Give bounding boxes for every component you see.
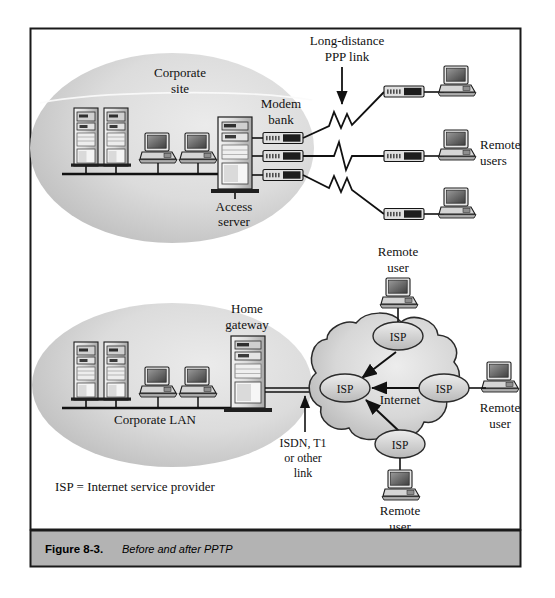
corporate-server-2 [101, 108, 131, 174]
isp-node-right-label: ISP [436, 383, 453, 395]
legend-text: ISP = Internet service provider [55, 479, 216, 494]
remote-modem-2 [384, 151, 424, 162]
internet-label: Internet [380, 392, 421, 407]
remote-modem-3 [384, 209, 424, 220]
isp-node-bottom-label: ISP [392, 439, 409, 451]
home-gateway-label: Home [231, 301, 263, 316]
remote-user-bottom-label: Remote [380, 503, 421, 518]
remote-users-label-2: users [480, 153, 507, 168]
remote-users-label: Remote [480, 137, 521, 152]
modem-bank-label-2: bank [268, 112, 294, 127]
modem-1 [263, 133, 303, 144]
isp-node-left-label: ISP [337, 383, 354, 395]
remote-user-top-label-2: user [387, 260, 409, 275]
caption-title: Before and after PPTP [122, 543, 233, 555]
wan-link-label-3: link [294, 466, 313, 480]
isp-node-left: ISP [320, 374, 370, 402]
remote-user-top-label: Remote [378, 244, 419, 259]
corporate-site-label-2: site [171, 81, 189, 96]
isp-node-right: ISP [419, 374, 469, 402]
corporate-lan-label: Corporate LAN [114, 412, 197, 427]
modem-2 [263, 151, 303, 162]
home-gateway-label-2: gateway [225, 317, 269, 332]
isp-node-top: ISP [373, 322, 423, 350]
ppp-link-label: Long-distance [310, 33, 385, 48]
network-diagram: Corporate site [0, 0, 555, 598]
modem-3 [263, 170, 303, 181]
caption-number: Figure 8-3. [45, 543, 103, 555]
remote-user-right-label: Remote [480, 400, 521, 415]
home-server-2 [101, 342, 131, 408]
wan-link-label: ISDN, T1 [279, 436, 326, 450]
ppp-link-label-2: PPP link [325, 49, 370, 64]
wan-link-label-2: or other [284, 451, 322, 465]
access-server [211, 117, 259, 199]
corporate-site-label: Corporate [154, 65, 206, 80]
corporate-server-1 [71, 108, 101, 174]
caption-bar [31, 531, 521, 567]
remote-user-right-label-2: user [489, 416, 511, 431]
access-server-label-2: server [218, 214, 250, 229]
isp-node-bottom: ISP [375, 430, 425, 458]
access-server-label: Access [216, 199, 253, 214]
modem-bank-label: Modem [261, 96, 301, 111]
figure-container: Corporate site [0, 0, 555, 598]
isp-node-top-label: ISP [390, 331, 407, 343]
remote-modem-1 [384, 86, 424, 97]
home-gateway [224, 336, 272, 412]
home-server-1 [71, 342, 101, 408]
